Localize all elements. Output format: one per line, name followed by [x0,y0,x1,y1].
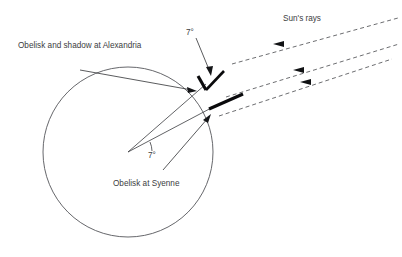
alexandria-shadow-mark [206,71,224,90]
sun-ray-middle-arrowhead [293,67,304,73]
sun-rays-group [219,18,399,116]
angle-top-label: 7° [186,28,194,37]
angle-top-leader [196,38,213,76]
center-angle-arc [150,142,152,151]
diagram-canvas: Obelisk and shadow at Alexandria Obelisk… [0,0,402,257]
sun-rays-label: Sun's rays [283,14,321,23]
sun-ray-middle [226,44,399,97]
alexandria-leader [80,70,197,93]
sun-ray-top-arrowhead [273,41,284,47]
radius-line-syenne [128,106,215,152]
angle-center-label: 7° [148,151,156,160]
sun-ray-bottom [219,59,392,116]
syenne-leader-line [163,118,208,170]
syenne-obelisk-mark [209,94,243,109]
radius-line-alexandria [128,84,206,152]
sun-ray-top [232,18,398,64]
syenne-leader [163,114,211,170]
sun-ray-bottom-arrowhead [300,79,311,85]
eratosthenes-diagram: Obelisk and shadow at Alexandria Obelisk… [0,0,402,257]
syenne-label: Obelisk at Syenne [113,179,180,188]
alexandria-leader-line [80,70,192,90]
alexandria-label: Obelisk and shadow at Alexandria [18,41,142,50]
angle-top-leader-arrowhead [206,66,213,76]
alexandria-leader-arrowhead [187,87,197,93]
